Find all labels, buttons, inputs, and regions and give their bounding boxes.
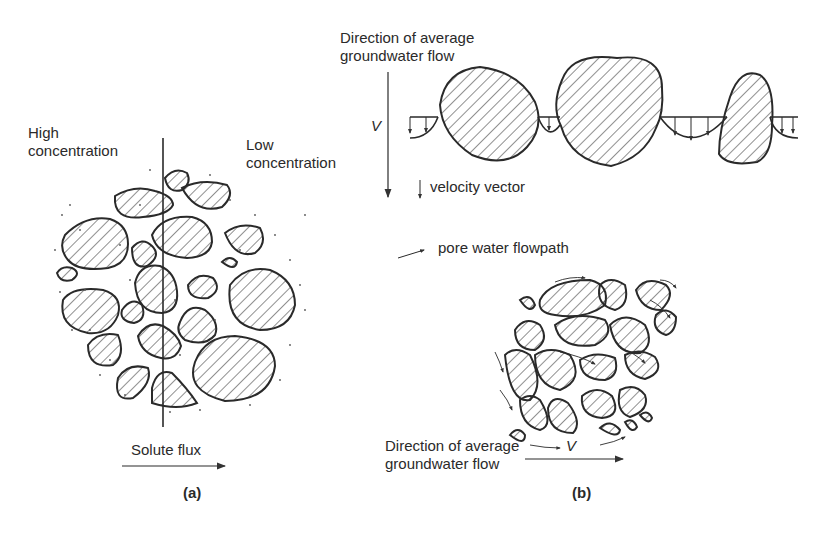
high-concentration-label: Highconcentration [28, 124, 118, 160]
bottom-direction-label: Direction of averagegroundwater flow [385, 437, 519, 473]
profile-grains [440, 57, 773, 166]
velocity-vector-legend: velocity vector [430, 178, 525, 196]
low-concentration-label: Lowconcentration [246, 136, 336, 172]
panel-a-grains [57, 170, 295, 407]
caption-a: (a) [183, 484, 201, 501]
velocity-symbol: V [371, 117, 381, 135]
caption-b: (b) [572, 484, 591, 501]
flowpath-legend-arrow [398, 250, 424, 258]
top-direction-label: Direction of averagegroundwater flow [340, 29, 474, 65]
bottom-velocity-symbol: V [566, 437, 576, 455]
solute-flux-label: Solute flux [131, 441, 201, 459]
pore-water-flowpath-legend: pore water flowpath [438, 239, 569, 257]
packed-grains [505, 280, 676, 441]
